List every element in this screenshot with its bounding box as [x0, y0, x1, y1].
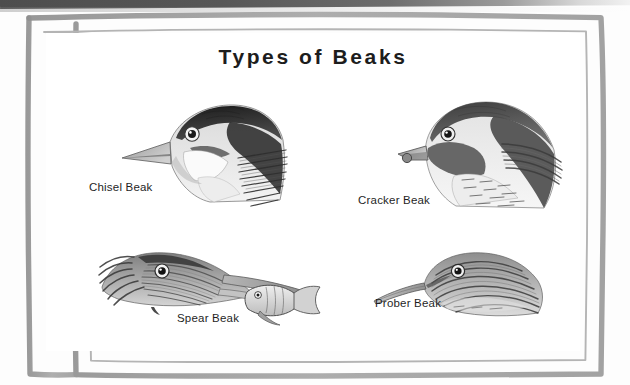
- fish-detail: [245, 285, 320, 325]
- page-title: Types of Beaks: [46, 45, 580, 69]
- caption-prober-beak: Prober Beak: [375, 297, 441, 309]
- caption-chisel-beak: Chisel Beak: [89, 181, 153, 193]
- worksheet-page: Types of Beaks: [0, 0, 630, 385]
- caption-spear-beak: Spear Beak: [177, 312, 239, 324]
- caption-cracker-beak: Cracker Beak: [358, 194, 430, 206]
